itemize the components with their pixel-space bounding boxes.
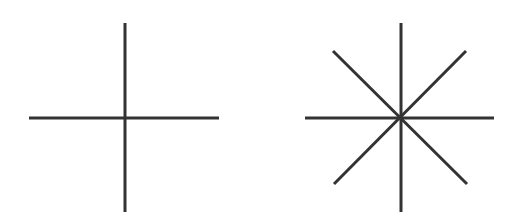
- diagram-canvas: [0, 0, 522, 222]
- plus-cross-icon: [29, 23, 219, 212]
- eight-point-star-icon: [305, 23, 494, 212]
